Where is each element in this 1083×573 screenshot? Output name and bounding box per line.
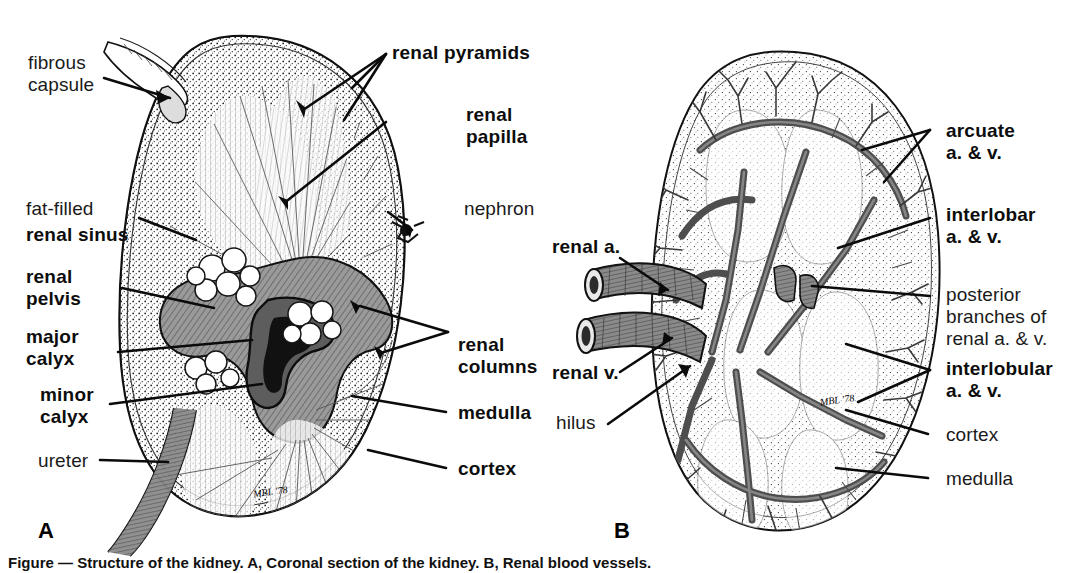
panel-b-artwork [577,51,940,548]
label-fibrous-capsule: fibrous capsule [28,52,94,96]
label-interlobular: interlobular a. & v. [946,358,1053,402]
label-renal-papilla: renal papilla [466,104,528,148]
label-interlobar: interlobar a. & v. [946,204,1036,248]
label-cortex: cortex [458,458,516,480]
anatomical-illustration: MBL '78 MBL '78 [0,0,1083,573]
label-renal-pyramids: renal pyramids [392,42,530,64]
fibrous-capsule-flap [104,38,188,123]
label-renal-artery: renal a. [552,236,620,258]
panel-letter-b: B [614,518,630,544]
label-renal-columns: renal columns [458,334,538,378]
panel-a-artwork [104,36,424,561]
figure-caption-strip: Figure — Structure of the kidney. A, Cor… [0,556,1083,573]
label-major-calyx: major calyx [26,326,79,370]
kidney-anatomy-figure: MBL '78 MBL '78 fibrous capsule fat-fill… [0,0,1083,573]
label-renal-sinus: renal sinus [26,224,129,246]
label-hilus: hilus [556,412,596,434]
label-ureter: ureter [38,450,88,472]
panel-letter-a: A [38,518,54,544]
label-renal-vein: renal v. [552,362,619,384]
figure-caption: Figure — Structure of the kidney. A, Cor… [8,556,1078,571]
label-medulla: medulla [458,402,531,424]
label-nephron: nephron [464,198,534,220]
label-renal-pelvis: renal pelvis [26,266,81,310]
label-posterior-branches: posterior branches of renal a. & v. [946,284,1047,350]
label-fat-filled: fat-filled [26,198,94,220]
label-cortex-b: cortex [946,424,998,446]
label-medulla-b: medulla [946,468,1013,490]
label-minor-calyx: minor calyx [40,384,94,428]
label-arcuate: arcuate a. & v. [946,120,1015,164]
